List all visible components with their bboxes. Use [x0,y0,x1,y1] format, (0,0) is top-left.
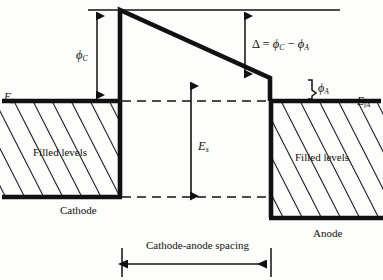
phi-a-bracket [308,80,316,99]
es-label: Es [198,140,209,154]
anode-label: Anode [313,228,342,239]
phi-a-label: ϕA [318,82,329,96]
energy-band-diagram: ϕC ϕA Δ = ϕC − ϕA Es EfC EfA Filled leve… [0,0,383,280]
anode-fermi-label: EfA [357,96,370,109]
cathode-fermi-label: EfC [4,92,18,105]
cathode-label: Cathode [60,205,97,216]
spacing-label: Cathode-anode spacing [146,240,249,251]
cathode-filled-levels-label: Filled levels [33,147,87,158]
phi-c-label: ϕC [76,49,88,63]
anode-filled-levels-label: Filled levels [295,152,349,163]
delta-equation-label: Δ = ϕC − ϕA [252,38,309,52]
potential-barrier-profile [120,10,270,197]
